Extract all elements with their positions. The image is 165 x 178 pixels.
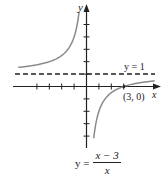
x-axis-label: x bbox=[152, 90, 156, 100]
curve-left-branch bbox=[18, 12, 79, 67]
intercept-label: (3, 0) bbox=[123, 92, 145, 102]
equation-numerator: x − 3 bbox=[93, 149, 120, 163]
equation-label: y = x − 3 x bbox=[75, 149, 121, 176]
equation-lhs: y = bbox=[75, 157, 89, 169]
asymptote-label: y = 1 bbox=[124, 62, 145, 72]
x-intercept-point bbox=[123, 85, 126, 88]
y-axis-arrow-icon bbox=[84, 4, 90, 12]
axis-ticks bbox=[37, 25, 124, 137]
equation-denominator: x bbox=[105, 163, 110, 176]
y-axis-label: y bbox=[78, 2, 83, 13]
